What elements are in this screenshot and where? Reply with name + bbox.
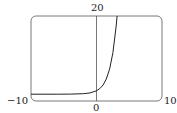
y-max-label: 20: [91, 3, 104, 13]
x-max-label: 10: [164, 96, 177, 106]
x-min-label: −10: [7, 96, 28, 106]
x-zero-label: 0: [93, 103, 99, 113]
function-curve: [31, 16, 117, 94]
